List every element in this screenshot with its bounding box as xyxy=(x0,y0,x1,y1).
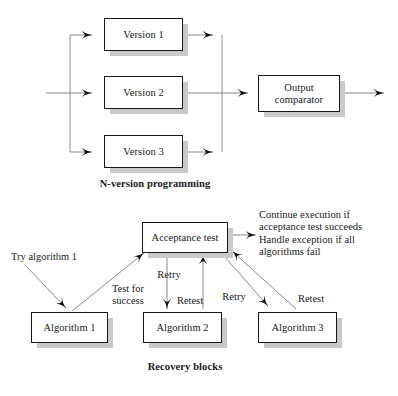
algorithm-2-box[interactable]: Algorithm 2 xyxy=(143,312,222,343)
algorithm-1-box[interactable]: Algorithm 1 xyxy=(31,312,108,343)
recovery-caption: Recovery blocks xyxy=(110,361,260,372)
algorithm-3-label: Algorithm 3 xyxy=(271,322,323,334)
try-algorithm-label: Try algorithm 1 xyxy=(11,251,77,263)
algorithm-2-label: Algorithm 2 xyxy=(156,322,208,334)
retry-1-label: Retry xyxy=(152,269,186,281)
algorithm-1-label: Algorithm 1 xyxy=(43,322,95,334)
figure-canvas: Version 1 Version 2 Version 3 Output com… xyxy=(0,0,398,396)
outcome-annotation: Continue execution if acceptance test su… xyxy=(259,209,398,259)
output-comparator-label: Output comparator xyxy=(275,82,323,106)
version-2-label: Version 2 xyxy=(123,87,163,99)
acceptance-test-label: Acceptance test xyxy=(152,232,219,244)
retest-1-label: Retest xyxy=(171,295,209,307)
version-1-label: Version 1 xyxy=(123,29,163,41)
version-2-box[interactable]: Version 2 xyxy=(104,76,183,109)
version-1-box[interactable]: Version 1 xyxy=(104,18,183,51)
version-3-box[interactable]: Version 3 xyxy=(104,135,183,168)
retest-2-label: Retest xyxy=(292,293,330,305)
algorithm-3-box[interactable]: Algorithm 3 xyxy=(258,312,337,343)
nversion-caption: N-version programming xyxy=(75,178,235,189)
version-3-label: Version 3 xyxy=(123,146,163,158)
test-for-success-label: Test for success xyxy=(98,283,158,308)
acceptance-test-box[interactable]: Acceptance test xyxy=(142,222,228,253)
retry-2-label: Retry xyxy=(217,291,251,303)
output-comparator-box[interactable]: Output comparator xyxy=(258,75,340,112)
